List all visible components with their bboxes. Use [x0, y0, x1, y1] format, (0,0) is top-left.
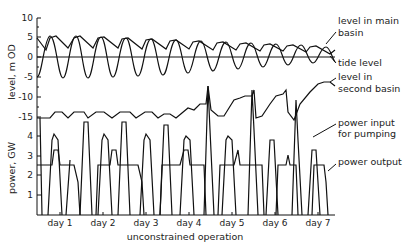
- xtick-day6: day 6: [262, 218, 287, 228]
- ytick-5: 5: [27, 32, 33, 42]
- ytick-m5: -5: [24, 72, 33, 82]
- annotation-second-basin: level in: [338, 71, 372, 82]
- xtick-day2: day 2: [90, 218, 115, 228]
- ptick-3: 3: [27, 151, 33, 161]
- y-title-power: power, GW: [6, 141, 17, 194]
- xtick-day7: day 7: [305, 218, 330, 228]
- ytick-m15: -15: [18, 112, 33, 122]
- level-ticks: [37, 18, 41, 117]
- ytick-10: 10: [22, 13, 34, 23]
- annotation-main-basin-2: basin: [338, 27, 363, 38]
- xtick-day1: day 1: [47, 218, 72, 228]
- y-title-level: level, m OD: [6, 44, 17, 100]
- annotation-second-basin-2: second basin: [338, 83, 400, 94]
- annotation-pumping: power input: [338, 117, 395, 128]
- xtick-day3: day 3: [133, 218, 158, 228]
- ytick-0: 0: [27, 52, 33, 62]
- annotation-tide-level: tide level: [338, 57, 382, 68]
- tidal-power-chart: 10 5 0 -5 -10 -15 4 3 2 1 level, m OD po…: [0, 0, 404, 245]
- annotation-main-basin: level in main: [338, 15, 399, 26]
- main-basin-level-line: [37, 36, 335, 54]
- x-title: unconstrained operation: [127, 231, 244, 242]
- ytick-m10: -10: [18, 92, 33, 102]
- xtick-day5: day 5: [219, 218, 244, 228]
- annotation-pumping-2: for pumping: [338, 128, 396, 139]
- xtick-day4: day 4: [176, 218, 201, 228]
- ptick-1: 1: [27, 190, 33, 200]
- annotation-power-output: power output: [338, 156, 402, 167]
- pumping-power-line: [40, 86, 320, 215]
- ptick-2: 2: [27, 170, 33, 180]
- ptick-4: 4: [27, 131, 33, 141]
- second-basin-level-line: [37, 82, 335, 120]
